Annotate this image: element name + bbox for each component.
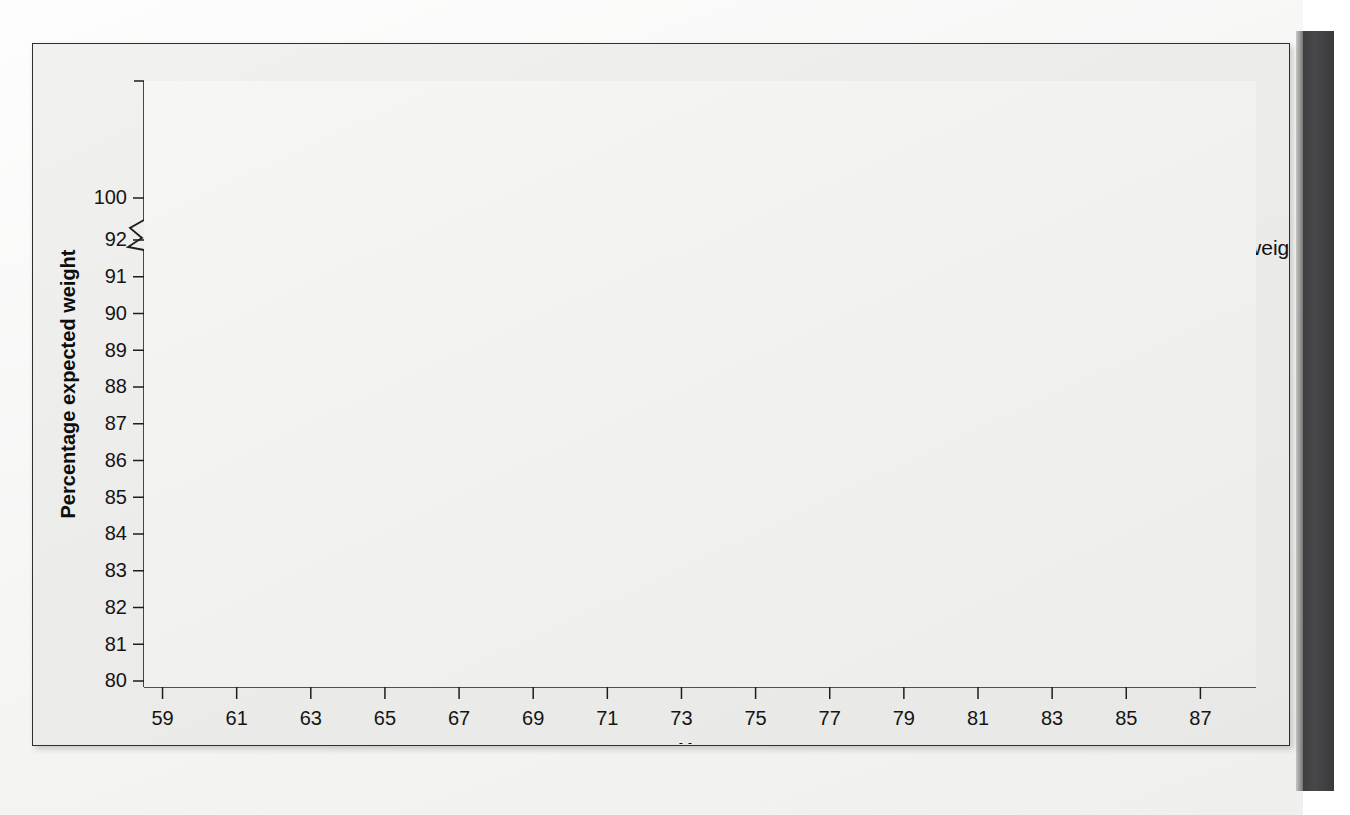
x-tick-label: 75 bbox=[744, 707, 766, 729]
x-ticks: 596163656769717375777981838587 bbox=[151, 687, 1211, 729]
x-tick-label: 63 bbox=[300, 707, 322, 729]
x-tick-label: 83 bbox=[1041, 707, 1063, 729]
axis-break-glyph bbox=[128, 220, 144, 250]
x-tick-label: 67 bbox=[448, 707, 470, 729]
x-tick-label: 85 bbox=[1115, 707, 1137, 729]
x-tick-label: 87 bbox=[1189, 707, 1211, 729]
y-tick-label: 89 bbox=[105, 339, 127, 361]
y-tick-label: 91 bbox=[105, 265, 127, 287]
y-tick-label: 88 bbox=[105, 375, 127, 397]
y-tick-label: 81 bbox=[105, 633, 127, 655]
book-page-edge bbox=[1303, 31, 1334, 791]
y-tick-label: 80 bbox=[105, 669, 127, 691]
x-tick-label: 79 bbox=[893, 707, 915, 729]
x-axis-title: Year bbox=[679, 739, 721, 744]
x-tick-label: 71 bbox=[596, 707, 618, 729]
x-tick-label: 77 bbox=[819, 707, 841, 729]
plot-panel bbox=[144, 81, 1256, 687]
y-tick-label: 85 bbox=[105, 486, 127, 508]
y-axis-title: Percentage expected weight bbox=[57, 249, 79, 518]
y-tick-label: 84 bbox=[105, 522, 127, 544]
y-tick-label: 92 bbox=[105, 228, 127, 250]
x-tick-label: 73 bbox=[670, 707, 692, 729]
y-tick-label: 86 bbox=[105, 449, 127, 471]
x-tick-label: 61 bbox=[226, 707, 248, 729]
y-tick-label: 82 bbox=[105, 596, 127, 618]
figure-frame: 8081828384858687888990919210059616365676… bbox=[32, 43, 1290, 746]
y-tick-label: 90 bbox=[105, 302, 127, 324]
x-tick-label: 69 bbox=[522, 707, 544, 729]
y-tick-label: 83 bbox=[105, 559, 127, 581]
x-tick-label: 81 bbox=[967, 707, 989, 729]
x-tick-label: 59 bbox=[151, 707, 173, 729]
x-tick-label: 65 bbox=[374, 707, 396, 729]
y-tick-label: 100 bbox=[94, 186, 127, 208]
y-ticks: 80818283848586878889909192100 bbox=[94, 186, 144, 691]
y-tick-label: 87 bbox=[105, 412, 127, 434]
